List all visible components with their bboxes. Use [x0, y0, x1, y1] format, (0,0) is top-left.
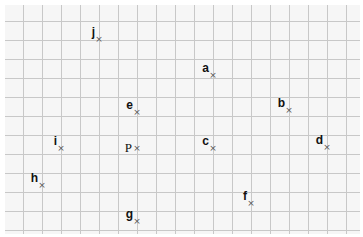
point-label: f — [243, 190, 247, 202]
point-label: b — [278, 97, 285, 109]
point-label: j — [92, 26, 95, 38]
point-label: h — [31, 172, 38, 184]
cross-marker-icon: × — [209, 143, 217, 153]
point-label: e — [126, 99, 133, 111]
cross-marker-icon: × — [95, 34, 103, 44]
cross-marker-icon: × — [323, 142, 331, 152]
cross-marker-icon: × — [57, 143, 65, 153]
point-label: P — [125, 142, 132, 154]
grid-lines — [0, 0, 363, 237]
point-label: d — [316, 134, 323, 146]
point-label: a — [202, 62, 209, 74]
cross-marker-icon: × — [133, 216, 141, 226]
cross-marker-icon: × — [38, 180, 46, 190]
cross-marker-icon: × — [209, 70, 217, 80]
cross-marker-icon: × — [285, 105, 293, 115]
cross-marker-icon: × — [247, 198, 255, 208]
point-label: g — [126, 208, 133, 220]
point-label: i — [54, 135, 57, 147]
cross-marker-icon: × — [133, 107, 141, 117]
cross-marker-icon: × — [133, 143, 141, 153]
point-label: c — [202, 135, 209, 147]
